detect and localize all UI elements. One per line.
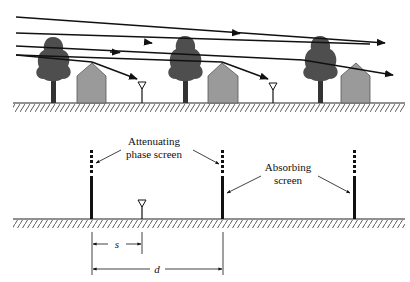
leader-absorbing-2 [318, 176, 350, 193]
house-icon [208, 63, 238, 103]
house-icon [77, 63, 106, 103]
ray-3-arrow [110, 52, 120, 53]
diagram-canvas: Attenuating phase screen Absorbing scree… [0, 0, 410, 282]
tree-icon [168, 36, 202, 103]
label-attenuating-line2: phase screen [126, 148, 182, 160]
label-absorbing-line2: screen [274, 174, 303, 186]
ground-hatch-top [13, 104, 405, 112]
label-attenuating-line1: Attenuating [128, 135, 180, 147]
dim-s-label: s [115, 238, 119, 250]
screen-2 [221, 150, 224, 219]
ground-hatch-bottom [13, 220, 405, 228]
tree-icon [303, 36, 337, 103]
screen-1 [90, 150, 93, 219]
antenna-icon [138, 82, 146, 103]
screen-3 [353, 150, 356, 219]
leader-absorbing-1 [227, 176, 261, 193]
antenna-icon [138, 200, 146, 219]
dim-d-label: d [154, 263, 160, 275]
label-absorbing-line1: Absorbing [265, 161, 312, 173]
ray-2b-arrow [235, 33, 240, 34]
ray-2-arrow [145, 42, 152, 43]
leader-attenuating-2 [193, 150, 219, 164]
bottom-model: Attenuating phase screen Absorbing scree… [13, 135, 405, 275]
top-scene [13, 17, 405, 112]
leader-attenuating-1 [96, 150, 121, 163]
antenna-icon [269, 83, 277, 103]
